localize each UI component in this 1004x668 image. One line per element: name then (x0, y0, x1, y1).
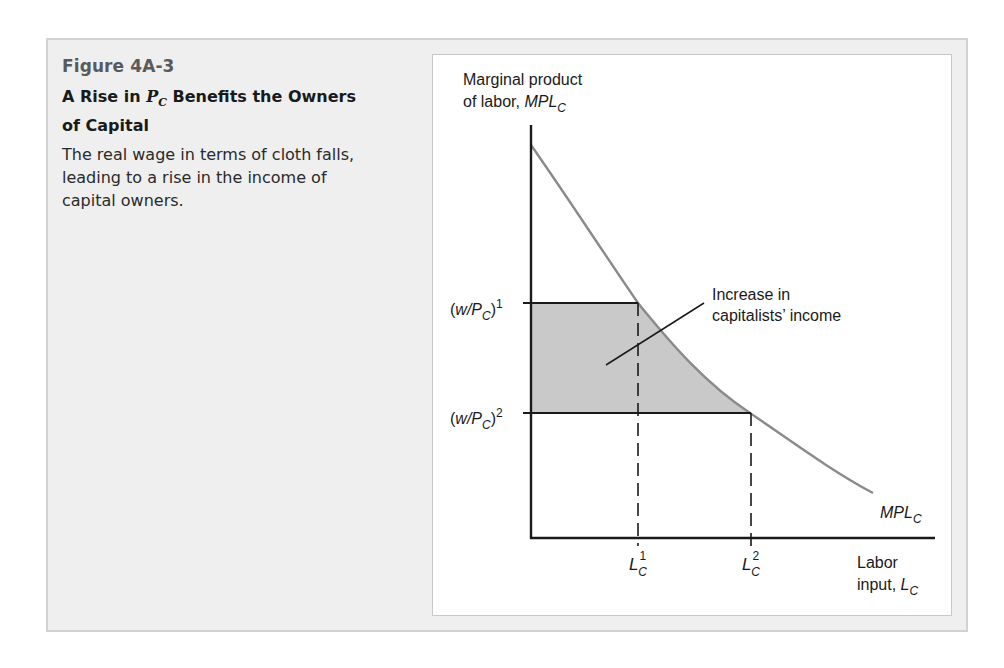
annotation-line1: Increase in (712, 286, 790, 303)
x-axis-label-line1: Labor (857, 554, 899, 571)
y-axis-label-line1: Marginal product (463, 71, 583, 88)
mpl-chart: Marginal product of labor, MPLC (w/PC)1 … (0, 0, 1004, 668)
mpl-curve-label: MPLC (880, 504, 922, 526)
x-axis-label-line2: input, LC (857, 576, 919, 598)
annotation-line2: capitalists’ income (712, 307, 841, 324)
wage1-label: (w/PC)1 (450, 297, 503, 323)
y-axis-label-line2: of labor, MPLC (463, 93, 566, 115)
lc2-label: L2C (742, 549, 760, 579)
lc1-label: L1C (629, 549, 647, 579)
wage2-label: (w/PC)2 (450, 406, 503, 432)
